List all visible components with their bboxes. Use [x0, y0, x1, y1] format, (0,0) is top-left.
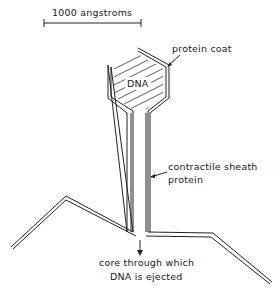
core-label-line1: core through which [99, 257, 194, 268]
protein-coat-label: protein coat [172, 43, 232, 54]
core-callout: core through which DNA is ejected [99, 240, 194, 282]
left-fiber-inner [13, 200, 136, 249]
sheath-callout: contractile sheath protein [150, 161, 258, 185]
dna-label: DNA [127, 78, 149, 89]
phage-diagram: 1000 angstroms DNA protein coat [0, 0, 279, 288]
scale-bar-label: 1000 angstroms [52, 7, 132, 18]
scale-bar: 1000 angstroms [44, 7, 141, 27]
protein-coat-callout: protein coat [167, 43, 232, 67]
sheath-arrowhead [150, 174, 155, 178]
core-label-line2: DNA is ejected [110, 271, 183, 282]
sheath-label-line2: protein [168, 174, 203, 185]
sheath-label-line1: contractile sheath [168, 161, 258, 172]
core-arrowhead [137, 250, 143, 256]
left-fiber-outer [11, 196, 133, 247]
